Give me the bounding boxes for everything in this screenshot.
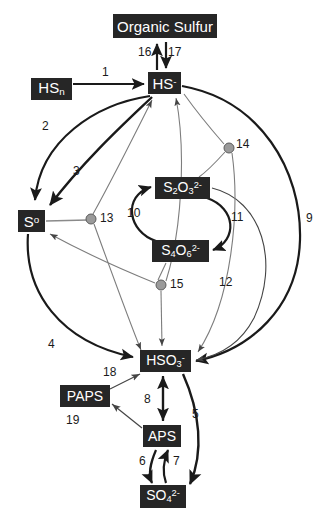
edge-14-link-s2o3: [199, 152, 225, 177]
junction-13-dot: [86, 214, 96, 224]
junction-15-dot: [156, 280, 166, 290]
edge-7-arrow: [164, 450, 168, 483]
edge-label-17: 17: [168, 46, 181, 58]
edge-label-10: 10: [127, 207, 140, 219]
node-s-zero: So: [18, 210, 45, 232]
edge-14-link-hs: [184, 94, 224, 144]
edge-6-arrow: [150, 450, 156, 483]
node-sulfate-label: SO42-: [146, 488, 180, 504]
edge-11-arrow: [207, 198, 230, 250]
edge-13-link-s0: [46, 220, 88, 221]
node-hs-minus: HS-: [148, 72, 181, 94]
edge-label-18: 18: [103, 366, 116, 378]
node-tetrathionate-label: S4O62-: [161, 243, 200, 259]
edge-label-15: 15: [170, 278, 183, 290]
node-sulfate: SO42-: [140, 485, 186, 508]
node-tetrathionate: S4O62-: [152, 240, 209, 262]
edge-4-arrow: [28, 234, 133, 357]
edge-19-arrow: [112, 404, 142, 428]
edge-5-arrow: [183, 374, 198, 484]
edge-label-11: 11: [231, 211, 243, 223]
node-organic-sulfur-label: Organic Sulfur: [117, 19, 213, 34]
node-aps: APS: [143, 425, 181, 447]
edge-15-link-s0: [50, 234, 155, 283]
edge-3-arrow: [50, 97, 152, 205]
edge-label-3: 3: [73, 165, 80, 177]
junction-14-dot: [224, 143, 234, 153]
edge-label-5: 5: [192, 408, 199, 420]
node-organic-sulfur: Organic Sulfur: [113, 14, 217, 38]
edge-label-19: 19: [66, 414, 79, 426]
edge-label-13: 13: [100, 212, 113, 224]
edge-label-2: 2: [42, 120, 49, 132]
node-paps: PAPS: [60, 385, 110, 407]
node-s-zero-label: So: [24, 214, 40, 229]
node-bisulfite: HSO3-: [140, 350, 191, 372]
node-aps-label: APS: [148, 429, 176, 443]
diagram-canvas: Organic Sulfur HSn HS- So S2O32- S4O62- …: [0, 0, 326, 519]
node-thiosulfate: S2O32-: [155, 177, 210, 199]
node-thiosulfate-label: S2O32-: [163, 180, 202, 196]
edge-13-link-hs: [93, 100, 152, 214]
edge-label-1: 1: [102, 66, 109, 78]
edge-label-4: 4: [48, 338, 55, 350]
edge-label-8: 8: [144, 393, 151, 405]
node-bisulfite-label: HSO3-: [146, 353, 185, 369]
edge-2-arrow: [35, 96, 150, 200]
edge-label-7: 7: [173, 455, 180, 467]
edge-label-12: 12: [219, 276, 232, 288]
edge-15-link-hso3: [161, 291, 162, 346]
edge-label-9: 9: [306, 212, 313, 224]
node-hs-minus-label: HS-: [152, 76, 176, 91]
node-paps-label: PAPS: [67, 389, 103, 403]
edge-label-14: 14: [236, 138, 249, 150]
edge-15-link-s4o6: [158, 263, 166, 280]
edge-13-link-hso3: [94, 224, 141, 350]
edge-label-6: 6: [139, 455, 146, 467]
node-hs-n: HSn: [31, 78, 72, 100]
node-hs-n-label: HSn: [38, 80, 64, 97]
edge-label-16: 16: [138, 46, 151, 58]
